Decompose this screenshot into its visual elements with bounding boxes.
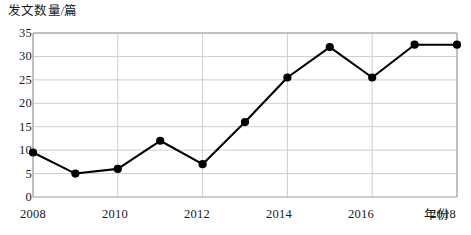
data-line bbox=[33, 45, 457, 174]
data-point-markers bbox=[29, 41, 461, 178]
data-point-marker bbox=[411, 41, 419, 49]
data-point-marker bbox=[156, 137, 164, 145]
publication-count-line-chart: 发文数量/篇 年份 35 30 25 20 15 10 5 0 2008 201… bbox=[0, 0, 471, 235]
axis-lines bbox=[33, 33, 457, 197]
data-point-marker bbox=[71, 169, 79, 177]
data-point-marker bbox=[199, 160, 207, 168]
data-point-marker bbox=[114, 165, 122, 173]
data-point-marker bbox=[29, 148, 37, 156]
data-point-marker bbox=[368, 73, 376, 81]
data-point-marker bbox=[283, 73, 291, 81]
data-point-marker bbox=[326, 43, 334, 51]
plot-area bbox=[0, 0, 471, 235]
data-point-marker bbox=[241, 118, 249, 126]
gridlines bbox=[33, 33, 457, 197]
data-point-marker bbox=[453, 41, 461, 49]
